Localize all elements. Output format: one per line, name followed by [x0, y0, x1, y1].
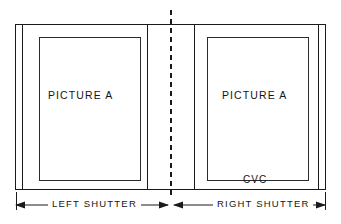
left-shutter-dimension-label: LEFT SHUTTER [48, 199, 141, 209]
diagram-linework [0, 0, 341, 224]
left-picture-label: PICTURE A [48, 90, 113, 101]
left-picture-frame [40, 38, 141, 181]
right-shutter-dimension-label: RIGHT SHUTTER [213, 199, 313, 209]
arrow-left-icon [173, 202, 183, 209]
cvc-annotation-label: CVC [243, 175, 267, 185]
arrow-right-icon [159, 202, 169, 209]
right-picture-frame [208, 38, 309, 181]
shutter-diagram-figure: PICTURE A PICTURE A CVC LEFT SHUTTER RIG… [0, 0, 341, 224]
right-picture-label: PICTURE A [222, 90, 287, 101]
